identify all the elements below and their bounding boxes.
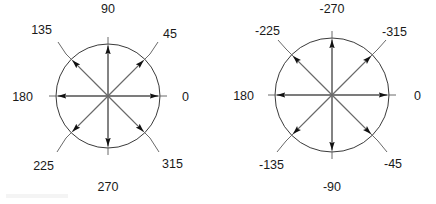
label-angle-180: 180	[12, 90, 33, 104]
label-angle-neg315: -315	[382, 25, 407, 39]
ray-neg315	[332, 56, 371, 95]
label-angle-45: 45	[163, 27, 177, 41]
leader-neg225	[278, 40, 286, 49]
ray-315	[108, 96, 144, 132]
negative-angle-circle: 0 -315 -270 -225 180 -135 -90 -45	[233, 2, 421, 194]
ray-neg45	[332, 95, 371, 134]
scan-artifact	[6, 194, 68, 198]
ray-45	[108, 60, 144, 96]
ray-neg135	[293, 95, 332, 134]
label-angle-135: 135	[31, 23, 52, 37]
label-angle-0: 0	[414, 89, 421, 103]
leader-neg45	[378, 141, 387, 152]
leader-neg135	[277, 141, 286, 152]
label-angle-0: 0	[182, 90, 189, 104]
label-angle-neg45: -45	[384, 157, 402, 171]
leader-neg315	[378, 40, 386, 49]
label-angle-315: 315	[162, 157, 183, 171]
label-angle-neg225: -225	[255, 24, 280, 38]
label-angle-neg270: -270	[319, 2, 344, 16]
leader-45	[150, 42, 158, 54]
leader-315	[150, 138, 159, 152]
positive-angle-circle: 0 45 90 135 180 225 270 315	[12, 2, 189, 194]
ray-135	[72, 60, 108, 96]
label-angle-225: 225	[33, 159, 54, 173]
figure-canvas: 0 45 90 135 180 225 270 315	[0, 0, 436, 204]
leader-135	[58, 42, 66, 54]
leader-225	[57, 138, 66, 152]
label-angle-270: 270	[98, 180, 119, 194]
ray-neg225	[293, 56, 332, 95]
label-angle-90: 90	[101, 2, 115, 16]
angle-circles-svg: 0 45 90 135 180 225 270 315	[0, 0, 436, 204]
ray-225	[72, 96, 108, 132]
label-angle-neg90: -90	[323, 180, 341, 194]
label-angle-180: 180	[233, 89, 254, 103]
label-angle-neg135: -135	[259, 158, 284, 172]
